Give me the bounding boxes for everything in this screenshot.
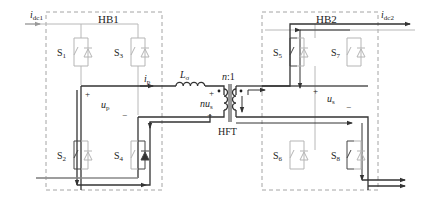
- idc1-label: idc1: [30, 9, 43, 22]
- s1-label: S1: [57, 47, 67, 60]
- up-plus: +: [85, 89, 90, 99]
- s7-label: S7: [331, 47, 341, 60]
- hb2-label: HB2: [316, 13, 337, 25]
- s4-label: S4: [114, 150, 124, 163]
- us-plus: +: [313, 86, 318, 96]
- s6-label: S6: [273, 150, 283, 163]
- idc2-label: idc2: [381, 9, 394, 22]
- inductor-label: Lσ: [179, 69, 190, 82]
- switch-s1: [74, 38, 92, 66]
- us-label: us: [327, 93, 335, 106]
- s3-label: S3: [114, 47, 124, 60]
- switch-s5: [290, 38, 308, 66]
- up-label: up: [101, 99, 110, 112]
- up-minus: −: [122, 110, 127, 120]
- turns-ratio-label: n:1: [222, 71, 235, 82]
- s2-label: S2: [57, 150, 67, 163]
- hft-label: HFT: [218, 126, 237, 137]
- hb1-label: HB1: [98, 13, 119, 25]
- nus-plus: +: [209, 88, 214, 98]
- dab-circuit-diagram: HB1 HB2 idc1 idc2 ip Lσ n:1 HFT + nus − …: [0, 0, 423, 202]
- nus-minus: −: [207, 110, 212, 120]
- inductor-symbol: [176, 82, 205, 86]
- transformer-symbol: [218, 84, 243, 122]
- switch-s4: [131, 141, 149, 169]
- s8-label: S8: [331, 150, 341, 163]
- ip-label: ip: [144, 73, 151, 86]
- active-current-path: [36, 24, 410, 190]
- switch-s3: [131, 38, 149, 66]
- switch-s6: [290, 141, 308, 169]
- hb2-wiring: [36, 24, 415, 178]
- s5-label: S5: [273, 47, 283, 60]
- us-minus: −: [346, 102, 351, 112]
- switch-s7: [347, 38, 365, 66]
